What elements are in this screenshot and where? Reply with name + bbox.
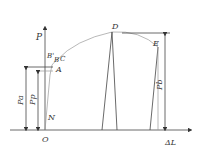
y-axis-label: P [35,32,43,42]
pa-label: Pa [16,95,25,106]
point-a-label: A [55,65,62,74]
pb-label: Pb [155,79,164,91]
point-n-label: N [47,113,56,122]
point-b-label: B [53,56,59,64]
point-c-label: C [60,55,66,63]
load-elongation-diagram: P ΔL O N A B' B C D E Pa Pp Pb [0,0,197,153]
point-e-label: E [152,39,159,48]
origin-label: O [42,135,49,144]
pp-label: Pp [28,94,37,106]
unload-line-d2 [112,32,117,130]
x-axis-label: ΔL [164,138,176,147]
unload-line-d [102,32,112,130]
point-d-label: D [111,22,119,31]
load-curve [45,32,158,130]
point-b-prime-label: B' [46,52,54,60]
